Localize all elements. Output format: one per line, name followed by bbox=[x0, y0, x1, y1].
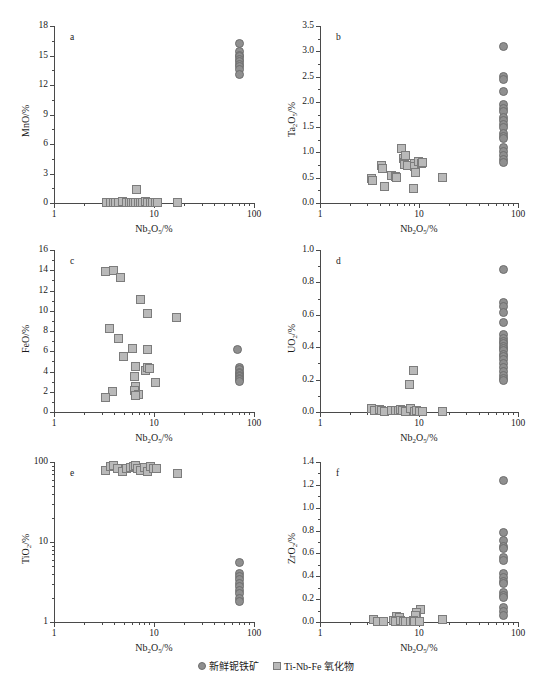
x-tick-major bbox=[518, 412, 519, 417]
legend-marker-circle bbox=[198, 662, 206, 670]
y-tick-minor bbox=[52, 566, 55, 567]
panel-letter-e: e bbox=[70, 468, 74, 478]
x-tick-minor bbox=[132, 622, 133, 625]
y-tick-minor bbox=[52, 402, 55, 403]
y-tick-major bbox=[50, 174, 55, 175]
x-axis-title: Nb2O5/% bbox=[54, 432, 254, 443]
y-tick-major bbox=[316, 51, 321, 52]
y-tick-label: 100 bbox=[8, 457, 48, 466]
x-tick-minor bbox=[202, 622, 203, 625]
data-point bbox=[128, 344, 137, 353]
data-point bbox=[499, 75, 508, 84]
x-tick-minor bbox=[124, 622, 125, 625]
x-tick-label: 10 bbox=[399, 419, 439, 428]
y-tick-label: 0.4 bbox=[274, 571, 314, 580]
data-point bbox=[153, 198, 162, 207]
x-tick-minor bbox=[232, 412, 233, 415]
y-tick-major bbox=[50, 462, 55, 463]
x-tick-major bbox=[320, 412, 321, 417]
data-point bbox=[499, 556, 508, 565]
data-point bbox=[132, 185, 141, 194]
y-tick-minor bbox=[52, 361, 55, 362]
y-tick-minor bbox=[52, 470, 55, 471]
x-tick-minor bbox=[144, 412, 145, 415]
data-point bbox=[499, 593, 508, 602]
y-tick-minor bbox=[52, 550, 55, 551]
x-tick-major bbox=[419, 203, 420, 208]
y-tick-label: 2.5 bbox=[274, 72, 314, 81]
x-tick-minor bbox=[449, 412, 450, 415]
x-tick-minor bbox=[214, 203, 215, 206]
x-tick-major bbox=[254, 622, 255, 627]
x-tick-minor bbox=[397, 203, 398, 206]
y-tick-label: 1.0 bbox=[274, 147, 314, 156]
data-point bbox=[438, 615, 447, 624]
data-point bbox=[235, 558, 244, 567]
data-point bbox=[136, 295, 145, 304]
x-tick-label: 100 bbox=[498, 629, 538, 638]
y-tick-major bbox=[316, 127, 321, 128]
data-point bbox=[116, 273, 125, 282]
x-tick-minor bbox=[496, 412, 497, 415]
x-tick-minor bbox=[513, 203, 514, 206]
data-point bbox=[119, 352, 128, 361]
x-tick-minor bbox=[513, 622, 514, 625]
y-axis-title: MnO/% bbox=[20, 104, 31, 136]
y-tick-major bbox=[50, 291, 55, 292]
data-point bbox=[114, 334, 123, 343]
x-tick-minor bbox=[466, 622, 467, 625]
data-point bbox=[235, 377, 244, 386]
y-tick-minor bbox=[318, 496, 321, 497]
y-tick-minor bbox=[318, 396, 321, 397]
y-tick-label: 0.8 bbox=[274, 277, 314, 286]
y-tick-major bbox=[50, 331, 55, 332]
y-tick-minor bbox=[52, 188, 55, 189]
y-tick-minor bbox=[318, 115, 321, 116]
x-tick-minor bbox=[466, 412, 467, 415]
y-tick-minor bbox=[318, 89, 321, 90]
x-tick-label: 100 bbox=[498, 210, 538, 219]
y-axis-title: ZrO2/% bbox=[286, 533, 297, 564]
legend-item-1: Ti-Nb-Fe 氧化物 bbox=[273, 658, 354, 673]
data-point bbox=[172, 313, 181, 322]
x-tick-minor bbox=[102, 412, 103, 415]
y-tick-minor bbox=[52, 598, 55, 599]
data-point bbox=[499, 42, 508, 51]
x-tick-minor bbox=[214, 622, 215, 625]
y-tick-minor bbox=[318, 611, 321, 612]
y-tick-minor bbox=[318, 519, 321, 520]
panel-letter-c: c bbox=[70, 256, 74, 266]
x-tick-label: 10 bbox=[399, 629, 439, 638]
x-tick-label: 10 bbox=[134, 419, 174, 428]
x-tick-label: 100 bbox=[234, 419, 274, 428]
y-tick-major bbox=[316, 315, 321, 316]
y-tick-minor bbox=[318, 266, 321, 267]
x-tick-minor bbox=[449, 203, 450, 206]
y-tick-major bbox=[50, 85, 55, 86]
data-point bbox=[438, 173, 447, 182]
x-tick-minor bbox=[389, 203, 390, 206]
y-tick-minor bbox=[52, 301, 55, 302]
data-point bbox=[409, 184, 418, 193]
x-tick-minor bbox=[102, 622, 103, 625]
x-tick-minor bbox=[139, 622, 140, 625]
y-tick-minor bbox=[318, 588, 321, 589]
y-tick-label: 18 bbox=[8, 21, 48, 30]
x-tick-label: 10 bbox=[134, 210, 174, 219]
y-tick-major bbox=[50, 542, 55, 543]
panel-letter-b: b bbox=[336, 32, 341, 42]
y-tick-major bbox=[316, 178, 321, 179]
x-tick-minor bbox=[84, 622, 85, 625]
data-point bbox=[131, 362, 140, 371]
y-tick-minor bbox=[52, 341, 55, 342]
y-tick-minor bbox=[52, 554, 55, 555]
data-point bbox=[151, 378, 160, 387]
y-tick-minor bbox=[318, 565, 321, 566]
y-tick-minor bbox=[52, 129, 55, 130]
data-point bbox=[499, 376, 508, 385]
x-tick-minor bbox=[124, 412, 125, 415]
y-tick-minor bbox=[52, 41, 55, 42]
y-tick-label: 14 bbox=[8, 265, 48, 274]
y-tick-major bbox=[316, 26, 321, 27]
y-tick-major bbox=[316, 282, 321, 283]
